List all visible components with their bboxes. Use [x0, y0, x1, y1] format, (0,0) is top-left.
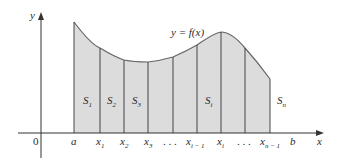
y-axis-label: y [29, 9, 35, 21]
shaded-region [74, 22, 270, 133]
y-axis-arrow-icon [38, 12, 44, 20]
origin-label: 0 [33, 135, 39, 147]
tick-dots-1: . . . [163, 135, 177, 147]
x-axis-label: x [316, 135, 322, 147]
x-tick-labels: a x1 x2 x3 . . . xi − 1 xi . . . xn − 1 … [71, 135, 296, 150]
tick-dots-2: . . . [237, 135, 251, 147]
strip-label-sn: Sn [277, 94, 287, 109]
tick-b: b [290, 135, 296, 147]
tick-x2: x2 [119, 135, 129, 150]
tick-x-i-minus-1: xi − 1 [185, 135, 205, 150]
tick-x1: x1 [95, 135, 104, 150]
tick-x3: x3 [143, 135, 153, 150]
tick-x-i: xi [216, 135, 224, 150]
tick-a: a [71, 135, 77, 147]
curve-label: y = f(x) [170, 26, 204, 39]
tick-x-n-minus-1: xn − 1 [259, 135, 280, 150]
area-strips-diagram: y x 0 y = f(x) S1 S2 S3 Si Sn a x1 x2 x3… [0, 0, 341, 165]
